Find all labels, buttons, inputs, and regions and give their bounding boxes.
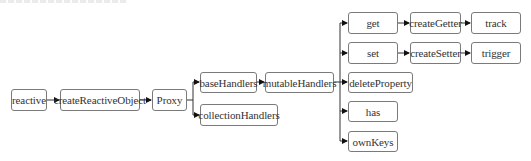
node-get: get	[348, 12, 398, 34]
node-has: has	[348, 101, 398, 122]
node-reactive: reactive	[11, 89, 47, 111]
node-set: set	[348, 42, 398, 64]
node-create-getter: createGetter	[410, 12, 461, 34]
node-proxy: Proxy	[152, 89, 187, 111]
node-trigger: trigger	[471, 42, 521, 64]
node-collection-handlers: collectionHandlers	[200, 104, 278, 126]
node-create-reactive-object: createReactiveObject	[60, 89, 140, 111]
node-own-keys: ownKeys	[348, 131, 398, 152]
node-track: track	[471, 12, 521, 34]
node-create-setter: createSetter	[410, 42, 461, 64]
node-mutable-handlers: mutableHandlers	[265, 72, 334, 93]
node-delete-property: deleteProperty	[348, 72, 413, 93]
node-base-handlers: baseHandlers	[200, 72, 257, 93]
